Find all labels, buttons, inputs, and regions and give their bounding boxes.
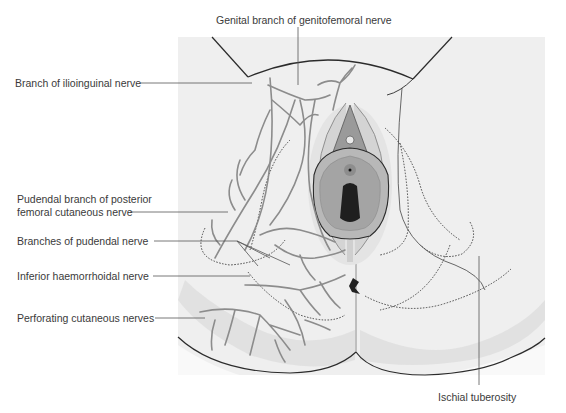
label-inferior-haemorrhoidal-nerve: Inferior haemorrhoidal nerve bbox=[17, 270, 149, 283]
urethral-meatus bbox=[349, 169, 352, 172]
label-genital-branch-genitofemoral: Genital branch of genitofemoral nerve bbox=[216, 14, 392, 27]
label-perforating-cutaneous-nerves: Perforating cutaneous nerves bbox=[17, 312, 154, 325]
vaginal-orifice bbox=[340, 183, 360, 222]
label-pudendal-branch-posterior-line1: Pudendal branch of posterior bbox=[17, 193, 152, 206]
diagram-canvas: Genital branch of genitofemoral nerve Br… bbox=[0, 0, 566, 413]
label-ilioinguinal-branch: Branch of ilioinguinal nerve bbox=[15, 77, 141, 90]
label-branches-pudendal-nerve: Branches of pudendal nerve bbox=[17, 235, 148, 248]
label-ischial-tuberosity: Ischial tuberosity bbox=[438, 391, 516, 404]
clitoris bbox=[346, 136, 354, 144]
label-pudendal-branch-posterior-line2: femoral cutaneous nerve bbox=[17, 206, 133, 219]
